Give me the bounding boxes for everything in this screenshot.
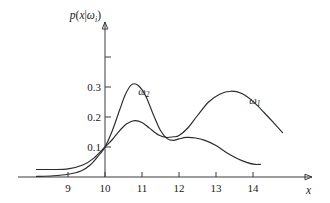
y-axis-label: p(x|ωi) (69, 9, 101, 24)
series-label-omega2-symbol: ω (138, 86, 145, 97)
y-axis-tick-labels: 0.1 0.2 0.3 (87, 81, 101, 153)
x-tick-label-13: 13 (211, 182, 223, 194)
density-curves (37, 84, 283, 177)
x-tick-label-11: 11 (137, 182, 148, 194)
y-tick-label-0.2: 0.2 (87, 111, 101, 123)
y-tick-label-0.1: 0.1 (87, 141, 101, 153)
y-axis-label-close-paren: ) (97, 9, 101, 22)
x-axis-ticks (68, 172, 253, 177)
x-axis-tick-labels: 9 10 11 12 13 14 (65, 182, 259, 194)
series-label-omega2-subscript: 2 (146, 90, 150, 99)
series-label-omega1: ω1 (249, 95, 260, 109)
series-label-omega1-subscript: 1 (257, 99, 261, 108)
x-axis-label: x (305, 184, 312, 196)
y-axis-ticks (105, 57, 111, 147)
x-tick-label-14: 14 (248, 182, 260, 194)
x-tick-label-10: 10 (100, 182, 112, 194)
x-tick-label-12: 12 (174, 182, 185, 194)
density-plot-svg: 9 10 11 12 13 14 0.1 0.2 0.3 p(x|ωi) x (0, 0, 330, 203)
series-label-omega2: ω2 (138, 86, 149, 100)
y-axis-label-omega: ω (87, 9, 95, 21)
series-annotations: ω2 ω1 (138, 86, 260, 109)
curve-omega1 (37, 91, 283, 169)
axes-group (18, 22, 312, 180)
y-tick-label-0.3: 0.3 (87, 81, 101, 93)
series-label-omega1-symbol: ω (249, 95, 256, 106)
x-tick-label-9: 9 (65, 182, 71, 194)
chart-figure: 9 10 11 12 13 14 0.1 0.2 0.3 p(x|ωi) x (0, 0, 330, 203)
